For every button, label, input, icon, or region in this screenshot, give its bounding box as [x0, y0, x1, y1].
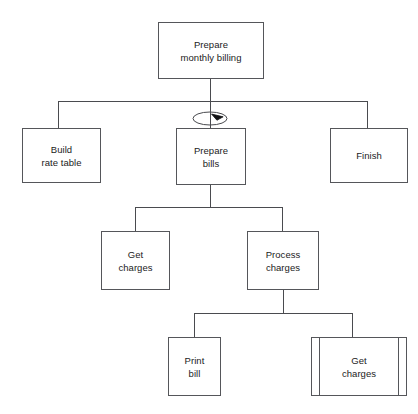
- node-label: Get charges: [342, 354, 376, 380]
- node-label: Print bill: [185, 354, 205, 380]
- node-label: Process charges: [266, 248, 301, 274]
- node-build-rate-table[interactable]: Build rate table: [22, 128, 101, 183]
- connector-drop-get-charges: [135, 207, 136, 232]
- connector-bus-level-1: [58, 101, 368, 102]
- node-label: Finish: [356, 149, 382, 162]
- connector-drop-get-charges-lib: [352, 313, 353, 338]
- node-get-charges-library[interactable]: Get charges: [311, 337, 407, 396]
- connector-trunk-root-to-bus1: [210, 79, 211, 102]
- node-label: Prepare bills: [194, 144, 228, 170]
- connector-drop-finish: [367, 101, 368, 129]
- node-finish[interactable]: Finish: [330, 128, 408, 183]
- node-label: Build rate table: [41, 143, 81, 169]
- iteration-loop-icon: [185, 104, 235, 133]
- connector-trunk-process-to-bus3: [283, 290, 284, 314]
- node-get-charges[interactable]: Get charges: [101, 231, 170, 290]
- node-prepare-bills[interactable]: Prepare bills: [176, 128, 246, 185]
- node-print-bill[interactable]: Print bill: [168, 337, 221, 396]
- node-label: Prepare monthly billing: [181, 38, 242, 64]
- connector-drop-build-rate-table: [58, 101, 59, 129]
- node-label: Get charges: [118, 248, 152, 274]
- connector-bus-level-2: [135, 207, 283, 208]
- connector-drop-print-bill: [194, 313, 195, 338]
- node-prepare-monthly-billing[interactable]: Prepare monthly billing: [158, 22, 264, 79]
- connector-drop-process-charges: [282, 207, 283, 232]
- connector-trunk-bills-to-bus2: [210, 185, 211, 208]
- connector-bus-level-3: [194, 313, 353, 314]
- node-process-charges[interactable]: Process charges: [247, 231, 319, 290]
- structure-chart-canvas: Prepare monthly billingBuild rate tableP…: [0, 0, 418, 414]
